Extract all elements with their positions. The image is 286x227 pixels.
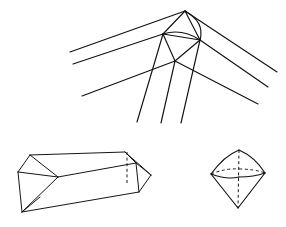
crystal-figure-canvas [0,0,286,227]
